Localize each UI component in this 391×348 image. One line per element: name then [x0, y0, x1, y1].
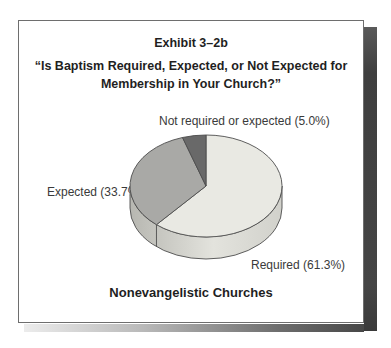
page: Exhibit 3–2b “Is Baptism Required, Expec…: [0, 0, 391, 348]
pie-chart-svg: [126, 131, 286, 263]
exhibit-question-line2: Membership in Your Church?”: [19, 75, 363, 94]
card-drop-shadow-right: [364, 27, 377, 331]
exhibit-question-line1: “Is Baptism Required, Expected, or Not E…: [19, 57, 363, 76]
exhibit-card: Exhibit 3–2b “Is Baptism Required, Expec…: [18, 20, 364, 323]
pie-chart: [126, 131, 286, 263]
pie-label-not-required: Not required or expected (5.0%): [159, 114, 330, 128]
card-drop-shadow-bottom: [24, 324, 364, 332]
exhibit-title: Exhibit 3–2b: [19, 34, 363, 53]
exhibit-header: Exhibit 3–2b “Is Baptism Required, Expec…: [19, 34, 363, 94]
chart-caption: Nonevangelistic Churches: [19, 285, 363, 300]
